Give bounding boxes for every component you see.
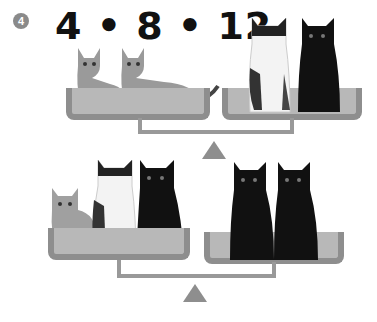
beam [138,130,294,134]
fulcrum [202,141,226,159]
problem-number-badge: 4 [13,13,29,29]
beam [117,274,276,278]
calico-cat-icon [244,14,296,114]
black-cat-icon [272,158,320,262]
black-cat-icon [228,158,276,262]
bottom-left-pan [48,228,190,260]
black-cat-icon [296,14,344,114]
fulcrum [183,284,207,302]
top-left-pan [66,88,210,120]
problem-title: 4 • 8 • 12 [55,4,272,48]
